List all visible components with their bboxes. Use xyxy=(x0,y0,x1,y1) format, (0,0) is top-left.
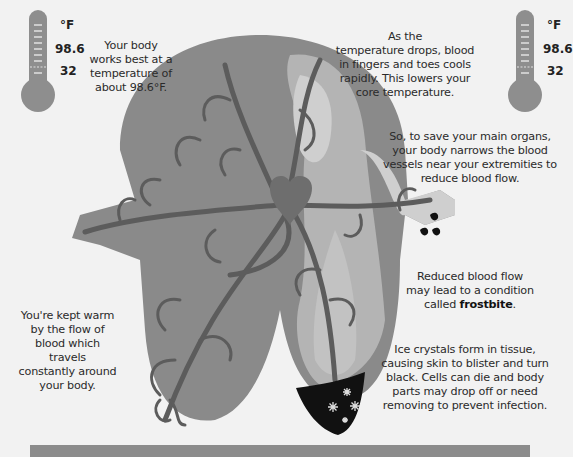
therm-left-unit: °F xyxy=(60,18,74,32)
text-line: in fingers and toes cools xyxy=(330,58,480,72)
text-line: causing skin to blister and turn xyxy=(365,357,565,371)
text-line: vessels near your extremities to xyxy=(375,158,565,172)
text-line: constantly around xyxy=(15,365,120,379)
annotation-body-temp: Your body works best at a temperature of… xyxy=(82,39,180,95)
therm-left-value-low: 32 xyxy=(60,64,77,78)
thermometer-icon xyxy=(508,10,542,112)
text-line: Ice crystals form in tissue, xyxy=(365,343,565,357)
text-line: core temperature. xyxy=(330,86,480,100)
annotation-kept-warm: You're kept warm by the flow of blood wh… xyxy=(15,309,120,393)
text-line: reduce blood flow. xyxy=(375,172,565,186)
text-line: As the xyxy=(330,30,480,44)
text-line: blood which travels xyxy=(15,337,120,365)
text-line: works best at a xyxy=(82,53,180,67)
text-line: You're kept warm xyxy=(15,309,120,323)
therm-right-unit: °F xyxy=(547,18,561,32)
text-line: your body. xyxy=(15,379,120,393)
text-line: about 98.6°F. xyxy=(82,81,180,95)
text-line: called frostbite. xyxy=(400,298,540,312)
thermometer-icon xyxy=(21,10,55,112)
text-line: Your body xyxy=(82,39,180,53)
bottom-banner xyxy=(30,445,530,457)
text-line: black. Cells can die and body xyxy=(365,371,565,385)
text-line: parts may drop off or need xyxy=(365,385,565,399)
annotation-reduced-flow: Reduced blood flow may lead to a conditi… xyxy=(400,270,540,312)
text-suffix: . xyxy=(513,298,516,311)
text-line: temperature drops, blood xyxy=(330,44,480,58)
annotation-save-organs: So, to save your main organs, your body … xyxy=(375,130,565,186)
text-line: by the flow of xyxy=(15,323,120,337)
annotation-ice-crystals: Ice crystals form in tissue, causing ski… xyxy=(365,343,565,413)
text-line: your body narrows the blood xyxy=(375,144,565,158)
text-line: removing to prevent infection. xyxy=(365,399,565,413)
text-line: rapidly. This lowers your xyxy=(330,72,480,86)
frostbite-term: frostbite xyxy=(459,298,512,311)
text-prefix: called xyxy=(424,298,459,311)
therm-right-value-low: 32 xyxy=(547,64,564,78)
text-line: So, to save your main organs, xyxy=(375,130,565,144)
therm-right-value-high: 98.6 xyxy=(543,42,573,56)
therm-left-value-high: 98.6 xyxy=(55,42,85,56)
text-line: may lead to a condition xyxy=(400,284,540,298)
text-line: Reduced blood flow xyxy=(400,270,540,284)
annotation-temp-drop: As the temperature drops, blood in finge… xyxy=(330,30,480,100)
text-line: temperature of xyxy=(82,67,180,81)
